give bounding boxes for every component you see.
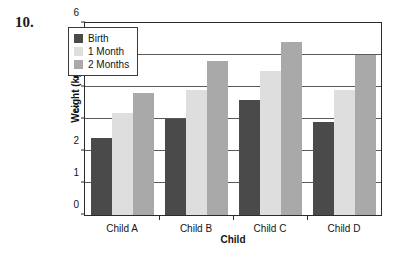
chart-legend: Birth1 Month2 Months: [68, 27, 138, 76]
x-category-label: Child A: [106, 223, 138, 234]
legend-label: Birth: [88, 32, 109, 45]
x-category-label: Child B: [180, 223, 212, 234]
problem-number: 10.: [15, 14, 34, 31]
legend-label: 2 Months: [88, 58, 129, 71]
x-category-label: Child C: [254, 223, 287, 234]
y-tick-label: 0: [73, 199, 79, 210]
bar-chart: Weight (kg) 0123456 Child AChild BChild …: [58, 18, 388, 248]
x-tick-mark: [233, 215, 234, 220]
legend-item: 1 Month: [74, 45, 129, 58]
legend-swatch-icon: [74, 34, 83, 43]
legend-swatch-icon: [74, 60, 83, 69]
bar: [334, 90, 355, 215]
legend-item: 2 Months: [74, 58, 129, 71]
y-tick-label: 6: [73, 7, 79, 18]
bar: [186, 90, 207, 215]
x-category-label: Child D: [328, 223, 361, 234]
bar: [281, 42, 302, 215]
bar: [133, 93, 154, 215]
bar: [355, 55, 376, 215]
bar: [239, 100, 260, 215]
bar: [313, 122, 334, 215]
legend-swatch-icon: [74, 47, 83, 56]
y-tick-label: 3: [73, 103, 79, 114]
bar-group: [233, 23, 307, 215]
legend-label: 1 Month: [88, 45, 124, 58]
legend-item: Birth: [74, 32, 129, 45]
x-axis-title: Child: [84, 234, 382, 245]
bar: [260, 71, 281, 215]
y-tick-label: 2: [73, 135, 79, 146]
bar: [91, 138, 112, 215]
y-tick-label: 1: [73, 167, 79, 178]
bar: [165, 119, 186, 215]
bar: [207, 61, 228, 215]
bar-group: [159, 23, 233, 215]
bar: [112, 113, 133, 215]
x-tick-mark: [159, 215, 160, 220]
bar-group: [307, 23, 381, 215]
x-tick-mark: [307, 215, 308, 220]
